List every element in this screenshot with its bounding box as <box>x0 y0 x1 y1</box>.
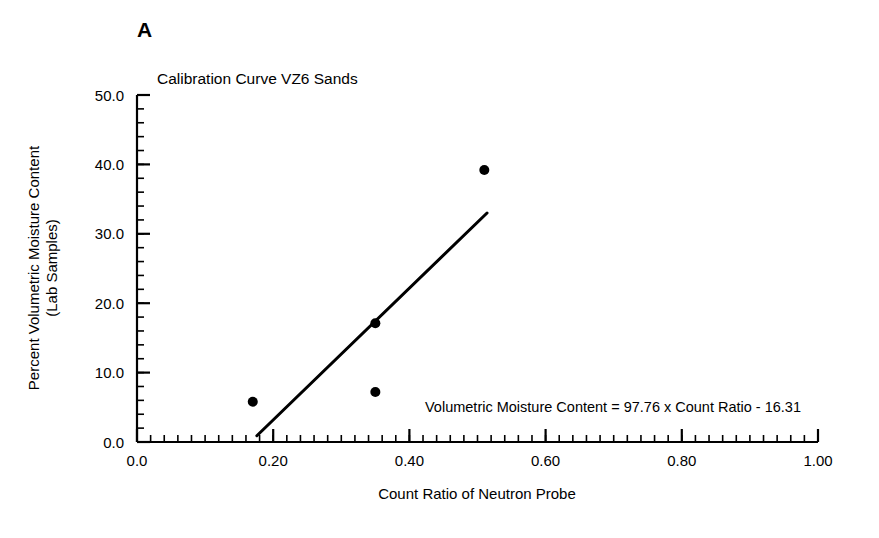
y-tick-label: 30.0 <box>95 225 124 242</box>
x-tick-label: 0.20 <box>259 452 288 469</box>
data-point <box>479 165 489 175</box>
x-tick-label: 0.0 <box>127 452 148 469</box>
data-point <box>370 387 380 397</box>
y-tick-label: 0.0 <box>103 434 124 451</box>
regression-equation-label: Volumetric Moisture Content = 97.76 x Co… <box>425 399 801 415</box>
x-axis-title: Count Ratio of Neutron Probe <box>378 485 576 502</box>
y-axis-title-line2: (Lab Samples) <box>43 219 60 317</box>
figure-container: A Calibration Curve VZ6 Sands 0.00.200.4… <box>0 0 879 538</box>
y-tick-label: 40.0 <box>95 156 124 173</box>
x-tick-label: 1.00 <box>803 452 832 469</box>
x-tick-label: 0.60 <box>531 452 560 469</box>
x-tick-label: 0.40 <box>395 452 424 469</box>
y-tick-label: 10.0 <box>95 364 124 381</box>
data-point-markers <box>248 165 490 407</box>
y-axis-tick-labels: 0.010.020.030.040.050.0 <box>95 87 124 451</box>
data-point <box>370 318 380 328</box>
scatter-plot-svg: 0.00.200.400.600.801.00 0.010.020.030.04… <box>0 0 879 538</box>
data-point <box>248 397 258 407</box>
y-axis-title-line1: Percent Volumetric Moisture Content <box>25 145 42 390</box>
y-tick-label: 50.0 <box>95 87 124 104</box>
y-axis-major-ticks <box>137 95 150 442</box>
y-tick-label: 20.0 <box>95 295 124 312</box>
x-tick-label: 0.80 <box>667 452 696 469</box>
x-axis-tick-labels: 0.00.200.400.600.801.00 <box>127 452 833 469</box>
